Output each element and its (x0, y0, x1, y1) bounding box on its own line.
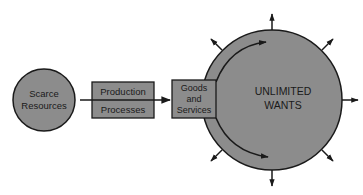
arrow-upright-icon (322, 39, 333, 50)
scarce-resources-label-1: Scarce (29, 88, 59, 99)
and-label: and (186, 94, 201, 104)
processes-label: Processes (101, 104, 146, 115)
wants-diagram: Scarce Resources Production Processes Go… (0, 0, 363, 195)
arrow-downright-icon (322, 150, 333, 161)
scarce-resources-label-2: Resources (21, 100, 67, 111)
wants-label: WANTS (264, 99, 302, 111)
arrow-downleft-icon (211, 150, 222, 161)
unlimited-label: UNLIMITED (255, 85, 312, 97)
goods-label: Goods (181, 83, 208, 93)
production-label: Production (100, 86, 145, 97)
arrow-upleft-icon (211, 39, 222, 50)
services-label: Services (177, 105, 212, 115)
